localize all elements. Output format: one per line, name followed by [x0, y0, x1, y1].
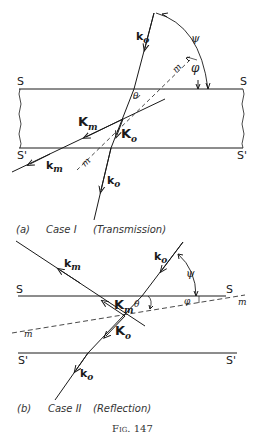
label-theta-b: θ: [134, 300, 139, 309]
panel-b: [12, 241, 245, 400]
caption-b-mode: (Reflection): [93, 403, 151, 414]
label-km-exit-b: km: [64, 258, 81, 272]
label-k0-exit-a: ko: [107, 175, 120, 189]
panel-a: [12, 13, 244, 220]
label-m-right-b: m: [238, 298, 247, 307]
label-k0-incident-a: ko: [136, 31, 149, 45]
label-phi-b: φ: [184, 297, 190, 306]
label-S-prime-left-b: S': [18, 355, 28, 366]
diagram-canvas: [0, 0, 259, 441]
label-S-top-right-a: S: [240, 76, 247, 87]
label-k0-incident-b: ko: [154, 251, 167, 265]
label-S-top-b: S: [16, 284, 23, 295]
label-psi-a: ψ: [191, 33, 200, 44]
label-S-prime-right-b: S': [226, 355, 236, 366]
label-psi-b: ψ: [186, 268, 195, 279]
slab-right-edge-a: [242, 89, 244, 148]
label-m-left-b: m: [24, 330, 33, 339]
label-S-top-right-b: S: [226, 284, 233, 295]
caption-b-label: (b): [17, 403, 31, 414]
figure-caption: Fig. 147: [112, 423, 153, 434]
label-K0-a: Ko: [121, 127, 137, 144]
label-Km-b: Km: [114, 298, 134, 315]
caption-a-mode: (Transmission): [93, 224, 166, 235]
angle-psi-arc-a: [156, 13, 208, 89]
caption-b-case: Case II: [48, 403, 82, 414]
label-theta-a: θ: [133, 92, 138, 101]
label-Km-a: Km: [78, 115, 98, 132]
caption-a-label: (a): [16, 224, 30, 235]
label-phi-a: φ: [191, 62, 199, 74]
label-S-prime-left-a: S': [17, 150, 27, 161]
slab-left-edge-a: [19, 89, 21, 148]
caption-a-case: Case I: [46, 224, 77, 235]
label-km-exit-a: km: [46, 160, 63, 174]
label-S-top-a: S: [17, 76, 24, 87]
label-K0-b: Ko: [115, 324, 131, 341]
label-k0-exit-b: ko: [80, 368, 93, 382]
label-S-prime-right-a: S': [237, 150, 247, 161]
